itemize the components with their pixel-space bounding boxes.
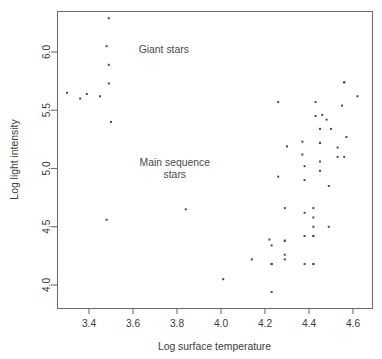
giant-stars-label: Giant stars [139, 44, 189, 55]
x-tick-label: 4.4 [302, 318, 316, 329]
data-point [343, 156, 345, 158]
data-point [79, 98, 81, 100]
data-point [319, 142, 321, 144]
data-point [343, 81, 345, 83]
y-axis-ticks: 4.04.55.05.56.0 [41, 45, 58, 292]
main-sequence-label: stars [164, 169, 187, 180]
data-point [271, 263, 273, 265]
data-point [271, 291, 273, 293]
data-point [301, 154, 303, 156]
data-point [284, 254, 286, 256]
data-point [312, 263, 314, 265]
data-point [319, 161, 321, 163]
data-point [356, 95, 358, 97]
x-axis-title: Log surface temperature [158, 341, 271, 352]
data-point [319, 170, 321, 172]
x-tick-label: 4.2 [258, 318, 272, 329]
data-point [251, 258, 253, 260]
data-point [328, 226, 330, 228]
data-point [341, 105, 343, 107]
data-point [321, 114, 323, 116]
data-point [185, 208, 187, 210]
data-point [277, 101, 279, 103]
data-point [99, 95, 101, 97]
main-sequence-label: Main sequence [140, 157, 211, 168]
x-tick-label: 4.0 [214, 318, 228, 329]
data-point [108, 64, 110, 66]
data-point [66, 92, 68, 94]
data-point [328, 185, 330, 187]
data-point [268, 239, 270, 241]
data-point [315, 115, 317, 117]
data-point [326, 119, 328, 121]
chart-canvas: 3.43.63.84.04.24.44.6 4.04.55.05.56.0 Gi… [0, 0, 382, 359]
data-point [286, 145, 288, 147]
y-tick-label: 5.0 [41, 161, 52, 175]
data-point [319, 128, 321, 130]
data-point [345, 136, 347, 138]
data-point [222, 278, 224, 280]
data-point [108, 17, 110, 19]
y-tick-label: 6.0 [41, 45, 52, 59]
data-point [110, 121, 112, 123]
y-axis-title: Log light intensity [9, 119, 20, 200]
data-point [106, 219, 108, 221]
scatter-plot-figure: 3.43.63.84.04.24.44.6 4.04.55.05.56.0 Gi… [0, 0, 382, 359]
data-point [304, 235, 306, 237]
data-point [86, 93, 88, 95]
data-point [106, 45, 108, 47]
data-point [312, 235, 314, 237]
data-point [312, 216, 314, 218]
data-point [315, 101, 317, 103]
annotations-layer: Giant starsMain sequencestars [139, 44, 211, 180]
data-point [284, 258, 286, 260]
data-point [108, 82, 110, 84]
data-point [330, 128, 332, 130]
data-point [304, 212, 306, 214]
data-point [337, 156, 339, 158]
x-tick-label: 3.4 [82, 318, 96, 329]
y-tick-label: 4.5 [41, 219, 52, 233]
x-tick-label: 3.6 [126, 318, 140, 329]
data-point [312, 226, 314, 228]
data-point [271, 244, 273, 246]
data-point [337, 147, 339, 149]
x-tick-label: 3.8 [170, 318, 184, 329]
plot-frame [58, 12, 373, 309]
data-point [301, 141, 303, 143]
y-tick-label: 5.5 [41, 103, 52, 117]
data-point [304, 165, 306, 167]
data-point [284, 240, 286, 242]
data-point [304, 263, 306, 265]
data-point [304, 179, 306, 181]
data-point [277, 176, 279, 178]
y-tick-label: 4.0 [41, 278, 52, 292]
x-tick-label: 4.6 [346, 318, 360, 329]
data-points-layer [66, 17, 358, 293]
data-point [284, 207, 286, 209]
x-axis-ticks: 3.43.63.84.04.24.44.6 [82, 308, 360, 329]
data-point [312, 207, 314, 209]
